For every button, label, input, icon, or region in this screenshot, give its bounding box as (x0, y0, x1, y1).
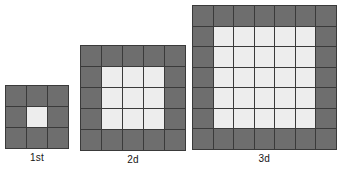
light-cell (102, 88, 122, 108)
grid-2d (80, 45, 186, 151)
dark-cell (81, 46, 101, 66)
light-cell (234, 47, 254, 67)
dark-cell (214, 6, 234, 26)
dark-cell (165, 109, 185, 129)
dark-cell (6, 86, 26, 106)
dark-cell (214, 129, 234, 149)
figure-caption-1st: 1st (30, 152, 44, 164)
figure-caption-3d: 3d (258, 153, 270, 165)
dark-cell (81, 109, 101, 129)
dark-cell (316, 88, 336, 108)
light-cell (102, 67, 122, 87)
dark-cell (275, 129, 295, 149)
dark-cell (296, 129, 316, 149)
dark-cell (316, 68, 336, 88)
light-cell (144, 88, 164, 108)
dark-cell (81, 67, 101, 87)
light-cell (144, 109, 164, 129)
dark-cell (165, 88, 185, 108)
light-cell (214, 109, 234, 129)
light-cell (123, 67, 143, 87)
dark-cell (193, 47, 213, 67)
dark-cell (81, 88, 101, 108)
light-cell (214, 88, 234, 108)
diagram-canvas: 1st 2d 3d (0, 0, 342, 183)
light-cell (255, 109, 275, 129)
light-cell (27, 107, 47, 127)
dark-cell (48, 107, 68, 127)
light-cell (214, 47, 234, 67)
light-cell (296, 27, 316, 47)
dark-cell (255, 129, 275, 149)
dark-cell (316, 109, 336, 129)
dark-cell (144, 46, 164, 66)
dark-cell (123, 46, 143, 66)
light-cell (102, 109, 122, 129)
light-cell (296, 68, 316, 88)
dark-cell (144, 130, 164, 150)
dark-cell (165, 67, 185, 87)
light-cell (275, 68, 295, 88)
dark-cell (48, 86, 68, 106)
dark-cell (193, 109, 213, 129)
dark-cell (123, 130, 143, 150)
dark-cell (6, 107, 26, 127)
light-cell (275, 109, 295, 129)
light-cell (234, 109, 254, 129)
dark-cell (316, 6, 336, 26)
dark-cell (193, 27, 213, 47)
light-cell (234, 68, 254, 88)
light-cell (234, 27, 254, 47)
light-cell (255, 27, 275, 47)
dark-cell (81, 130, 101, 150)
figure-1st: 1st (5, 85, 69, 164)
light-cell (296, 109, 316, 129)
light-cell (144, 67, 164, 87)
dark-cell (316, 47, 336, 67)
light-cell (123, 109, 143, 129)
dark-cell (316, 27, 336, 47)
light-cell (255, 88, 275, 108)
dark-cell (193, 68, 213, 88)
dark-cell (27, 128, 47, 148)
light-cell (275, 88, 295, 108)
dark-cell (165, 46, 185, 66)
dark-cell (48, 128, 68, 148)
dark-cell (6, 128, 26, 148)
dark-cell (27, 86, 47, 106)
dark-cell (234, 6, 254, 26)
dark-cell (165, 130, 185, 150)
figure-2d: 2d (80, 45, 186, 166)
light-cell (255, 47, 275, 67)
light-cell (296, 88, 316, 108)
grid-1st (5, 85, 69, 149)
light-cell (275, 47, 295, 67)
dark-cell (193, 129, 213, 149)
grid-3d (192, 5, 337, 150)
dark-cell (102, 46, 122, 66)
light-cell (255, 68, 275, 88)
dark-cell (296, 6, 316, 26)
dark-cell (102, 130, 122, 150)
dark-cell (275, 6, 295, 26)
figure-caption-2d: 2d (127, 154, 139, 166)
dark-cell (193, 6, 213, 26)
light-cell (275, 27, 295, 47)
dark-cell (234, 129, 254, 149)
dark-cell (255, 6, 275, 26)
figure-3d: 3d (192, 5, 337, 165)
light-cell (234, 88, 254, 108)
light-cell (123, 88, 143, 108)
light-cell (296, 47, 316, 67)
dark-cell (316, 129, 336, 149)
dark-cell (193, 88, 213, 108)
light-cell (214, 27, 234, 47)
light-cell (214, 68, 234, 88)
